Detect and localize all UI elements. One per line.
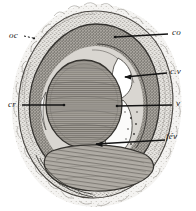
label-cv: c.v <box>170 67 181 76</box>
label-co: co <box>172 28 181 37</box>
label-oc: oc <box>9 31 18 40</box>
label-v: v <box>176 99 180 108</box>
anatomical-cross-section-illustration <box>0 0 196 211</box>
figure-plate: oc cr co c.v v fév <box>0 0 196 211</box>
central-hatched-body <box>46 60 122 148</box>
label-fev: fév <box>166 132 177 141</box>
label-cr: cr <box>8 100 16 109</box>
